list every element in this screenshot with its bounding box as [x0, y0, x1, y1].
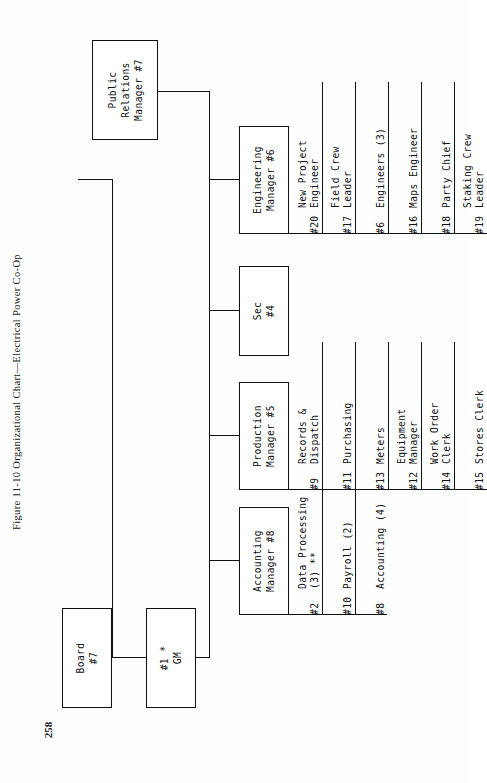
- list-item[interactable]: #20 New ProjectEngineer: [289, 82, 322, 234]
- list-item-label: Engineers (3): [375, 82, 388, 208]
- node-pr-line3: Manager #7: [132, 59, 145, 121]
- node-production-line2: Manager #5: [264, 405, 277, 467]
- node-pr-line1: Public: [106, 71, 119, 108]
- node-sec-line1: Sec: [251, 302, 264, 321]
- node-board[interactable]: Board #7: [62, 608, 112, 708]
- node-accounting-line2: Manager #8: [264, 530, 277, 592]
- org-chart-container: Board #7 #1 * GM Accounting Manager #8 P…: [32, 0, 468, 760]
- list-item-tag: #8: [375, 589, 388, 615]
- node-gm-line2: GM: [171, 652, 184, 664]
- list-item-tag: #16: [408, 208, 421, 234]
- node-gm-line1: #1 *: [158, 646, 171, 671]
- connector-main-bus: [209, 91, 210, 658]
- figure-caption: Figure 11-10 Organizational Chart—Electr…: [2, 0, 30, 783]
- connector-gm-to-board: [112, 657, 146, 658]
- list-item-tag: #9: [309, 464, 322, 490]
- list-item-label: Party Chief: [441, 82, 454, 208]
- list-item-tag: #13: [375, 464, 388, 490]
- list-item[interactable]: #15 Stores Clerk: [454, 342, 487, 490]
- list-item-tag: #19: [474, 208, 487, 234]
- node-gm[interactable]: #1 * GM: [146, 608, 196, 708]
- list-item-tag: #2: [309, 589, 322, 615]
- list-item-label: Maps Engineer: [408, 82, 421, 208]
- list-item-label: Purchasing: [342, 342, 355, 464]
- list-item-tag: #15: [474, 464, 487, 490]
- node-pr-line2: Relations: [119, 62, 132, 118]
- node-production-manager[interactable]: Production Manager #5: [239, 382, 289, 490]
- list-item[interactable]: #13 Meters: [355, 342, 388, 490]
- list-item-label: EquipmentManager: [396, 342, 421, 464]
- list-item-tag: #14: [441, 464, 454, 490]
- list-item-tag: #18: [441, 208, 454, 234]
- connector-board-bus: [112, 179, 113, 658]
- list-item-tag: #10: [342, 589, 355, 615]
- list-item-label: Field CrewLeader: [330, 82, 355, 208]
- list-item-tag: #6: [375, 208, 388, 234]
- node-engineering-line1: Engineering: [251, 146, 264, 214]
- list-item-label: Meters: [375, 342, 388, 464]
- list-item[interactable]: #16 Maps Engineer: [388, 82, 421, 234]
- figure-caption-text: Figure 11-10 Organizational Chart—Electr…: [11, 254, 22, 530]
- list-item[interactable]: #12 EquipmentManager: [388, 342, 421, 490]
- list-item-label: Records &Dispatch: [297, 342, 322, 464]
- org-chart: Board #7 #1 * GM Accounting Manager #8 P…: [48, 6, 452, 754]
- connector-board-to-pr: [78, 179, 113, 180]
- list-item-label: Work OrderClerk: [429, 342, 454, 464]
- list-item-tag: #11: [342, 464, 355, 490]
- list-item-label: Staking CrewLeader: [462, 82, 487, 208]
- list-item-tag: #12: [408, 464, 421, 490]
- node-public-relations-manager[interactable]: Public Relations Manager #7: [92, 40, 158, 140]
- node-engineering-manager[interactable]: Engineering Manager #6: [239, 126, 289, 234]
- list-item-label: New ProjectEngineer: [297, 82, 322, 208]
- list-item-label: Stores Clerk: [474, 342, 487, 464]
- node-board-line2: #7: [87, 652, 100, 664]
- connector-bus-to-pr: [158, 91, 210, 92]
- connector-bus-to-accounting: [209, 560, 239, 561]
- connector-bus-to-production: [209, 435, 239, 436]
- list-item[interactable]: #6 Engineers (3): [355, 82, 388, 234]
- node-accounting-line1: Accounting: [251, 530, 264, 592]
- list-item-tag: #20: [309, 208, 322, 234]
- list-item[interactable]: #17 Field CrewLeader: [322, 82, 355, 234]
- node-production-line1: Production: [251, 405, 264, 467]
- list-item[interactable]: #11 Purchasing: [322, 342, 355, 490]
- list-item[interactable]: #14 Work OrderClerk: [421, 342, 454, 490]
- connector-bus-to-sec: [209, 310, 239, 311]
- connector-bus-to-engineering: [209, 179, 239, 180]
- node-sec[interactable]: Sec #4: [239, 266, 289, 356]
- node-board-line1: Board: [74, 643, 87, 674]
- node-sec-line2: #4: [264, 305, 277, 317]
- list-item[interactable]: #18 Party Chief: [421, 82, 454, 234]
- list-item-tag: #17: [342, 208, 355, 234]
- list-item[interactable]: #19 Staking CrewLeader: [454, 82, 487, 234]
- list-item[interactable]: #9 Records &Dispatch: [289, 342, 322, 490]
- node-accounting-manager[interactable]: Accounting Manager #8: [239, 507, 289, 615]
- node-engineering-line2: Manager #6: [264, 149, 277, 211]
